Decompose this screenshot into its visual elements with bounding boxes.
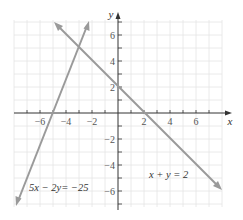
x-tick-label: 2 — [142, 116, 147, 127]
arrowhead-icon — [16, 196, 22, 206]
x-tick-label: −4 — [61, 116, 72, 127]
x-tick-label: −6 — [35, 116, 46, 127]
x-axis-label: x — [227, 115, 233, 127]
y-tick-label: 4 — [110, 56, 115, 67]
x-tick-label: 4 — [168, 116, 173, 127]
arrowhead-icon — [84, 21, 90, 31]
equation-label-line1: x + y = 2 — [148, 169, 189, 180]
y-axis-arrow-icon — [116, 12, 121, 19]
y-tick-label: −2 — [104, 134, 115, 145]
equation-label-line2: 5x − 2y= −25 — [29, 182, 88, 193]
y-tick-label: −4 — [104, 160, 115, 171]
y-axis-label: y — [108, 8, 114, 20]
y-tick-label: 6 — [110, 30, 115, 41]
x-tick-label: 6 — [194, 116, 199, 127]
y-tick-label: −6 — [104, 186, 115, 197]
x-tick-label: −2 — [87, 116, 98, 127]
coordinate-plane: −6 −4 −2 2 4 6 6 4 2 −2 −4 −6 x y x + y … — [0, 0, 243, 220]
